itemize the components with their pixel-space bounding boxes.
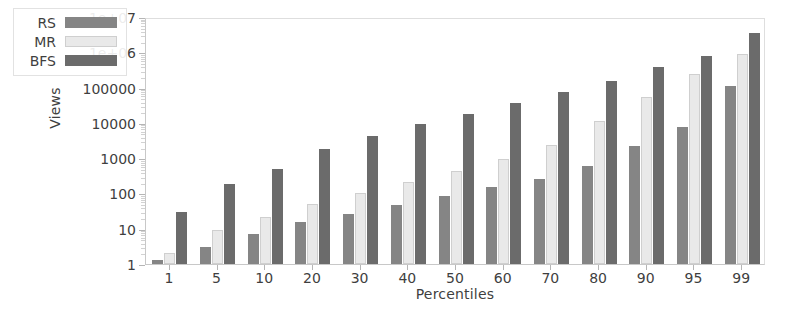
x-tick-mark [550, 265, 551, 270]
x-tick-mark [312, 265, 313, 270]
x-tick-mark [407, 265, 408, 270]
bar-mr-99 [737, 54, 748, 264]
x-tick-label: 1 [164, 270, 173, 286]
bar-mr-60 [498, 159, 509, 264]
bar-mr-1 [164, 253, 175, 264]
x-tick-mark [169, 265, 170, 270]
bar-bfs-40 [415, 124, 426, 264]
bar-mr-70 [546, 145, 557, 264]
bar-rs-40 [391, 205, 402, 264]
bar-rs-95 [677, 127, 688, 264]
x-tick-label: 90 [637, 270, 655, 286]
x-tick-mark [264, 265, 265, 270]
y-axis-title: Views [47, 63, 63, 153]
bar-bfs-1 [176, 212, 187, 264]
bar-bfs-60 [510, 103, 521, 264]
bar-rs-90 [629, 146, 640, 264]
x-tick-label: 60 [494, 270, 512, 286]
x-tick-label: 5 [212, 270, 221, 286]
x-tick-label: 80 [589, 270, 607, 286]
x-tick-label: 20 [303, 270, 321, 286]
x-tick-label: 10 [255, 270, 273, 286]
x-tick-label: 40 [398, 270, 416, 286]
x-tick-mark [360, 265, 361, 270]
legend-item-label: MR [20, 34, 56, 50]
bar-bfs-70 [558, 92, 569, 264]
bar-rs-60 [486, 187, 497, 264]
x-tick-mark [741, 265, 742, 270]
x-tick-label: 95 [685, 270, 703, 286]
plot-area [145, 18, 765, 265]
y-tick-mark [139, 265, 145, 266]
x-tick-label: 30 [351, 270, 369, 286]
legend-item-rs: RS [20, 13, 117, 32]
x-tick-mark [646, 265, 647, 270]
bar-rs-5 [200, 247, 211, 264]
x-tick-mark [503, 265, 504, 270]
bar-bfs-99 [749, 33, 760, 264]
bar-mr-30 [355, 193, 366, 264]
bar-mr-50 [451, 171, 462, 264]
bar-mr-80 [594, 121, 605, 264]
legend-item-label: RS [20, 15, 56, 31]
bar-rs-30 [343, 214, 354, 265]
legend-swatch-rs [65, 17, 117, 28]
bar-bfs-10 [272, 169, 283, 264]
x-tick-label: 50 [446, 270, 464, 286]
bar-rs-1 [152, 260, 163, 264]
legend-item-mr: MR [20, 32, 117, 51]
x-tick-label: 99 [732, 270, 750, 286]
x-tick-mark [598, 265, 599, 270]
bar-mr-5 [212, 230, 223, 264]
legend-swatch-mr [65, 36, 117, 47]
bar-bfs-95 [701, 56, 712, 264]
legend: RSMRBFS [13, 8, 127, 76]
bar-mr-95 [689, 74, 700, 264]
bar-rs-99 [725, 86, 736, 264]
bar-bfs-20 [319, 149, 330, 264]
legend-item-bfs: BFS [20, 51, 117, 70]
y-tick-label: 100000 [0, 81, 136, 97]
bar-rs-50 [439, 196, 450, 264]
bar-mr-90 [641, 97, 652, 264]
bar-bfs-90 [653, 67, 664, 264]
bar-mr-40 [403, 182, 414, 264]
bar-rs-70 [534, 179, 545, 264]
y-tick-label: 1000 [0, 151, 136, 167]
y-tick-label: 10 [0, 222, 136, 238]
y-tick-label: 10000 [0, 116, 136, 132]
bar-bfs-5 [224, 184, 235, 264]
bar-rs-20 [295, 222, 306, 264]
bar-mr-10 [260, 217, 271, 264]
bar-rs-80 [582, 166, 593, 264]
x-axis-title: Percentiles [145, 286, 765, 302]
y-tick-label: 1 [0, 257, 136, 273]
bar-chart-figure: Views 1101001000100001000001e+061e+07 15… [0, 0, 799, 315]
x-tick-mark [693, 265, 694, 270]
x-tick-mark [217, 265, 218, 270]
legend-item-label: BFS [20, 53, 56, 69]
legend-swatch-bfs [65, 55, 117, 66]
bar-rs-10 [248, 234, 259, 264]
x-tick-label: 70 [541, 270, 559, 286]
bar-mr-20 [307, 204, 318, 264]
bar-bfs-80 [606, 81, 617, 264]
y-tick-label: 100 [0, 186, 136, 202]
bar-bfs-50 [463, 114, 474, 264]
bar-bfs-30 [367, 136, 378, 264]
x-tick-mark [455, 265, 456, 270]
